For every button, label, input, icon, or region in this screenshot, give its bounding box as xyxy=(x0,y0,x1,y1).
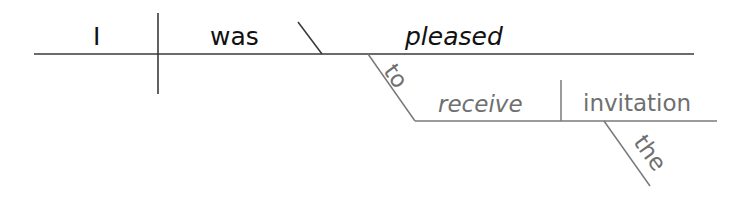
subject-word: I xyxy=(93,24,100,49)
infinitive-verb-word: receive xyxy=(438,93,523,116)
predicate-adjective-slant xyxy=(298,22,322,54)
predicate-adjective-word: pleased xyxy=(405,24,503,49)
infinitive-object-word: invitation xyxy=(583,92,691,115)
verb-word: was xyxy=(210,24,259,49)
sentence-diagram: I was pleased to receive invitation the xyxy=(0,0,745,199)
